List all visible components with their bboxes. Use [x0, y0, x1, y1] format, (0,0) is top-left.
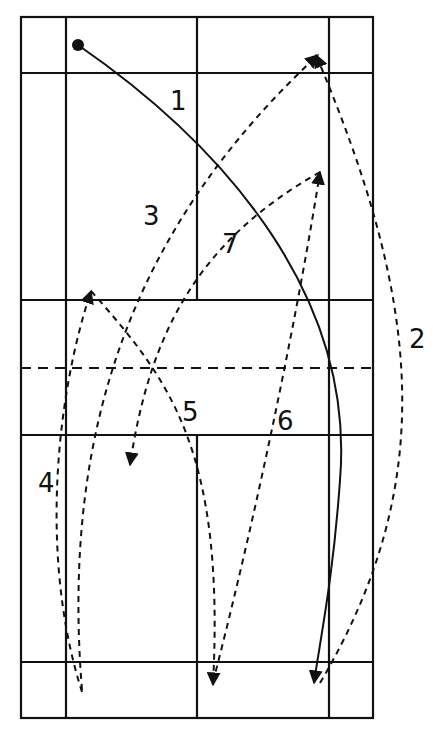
badminton-court-diagram: 1 2 3 4 5 6 7 [0, 0, 433, 731]
shot-3-path [78, 55, 318, 690]
court-lines [21, 17, 373, 718]
shot-3-label: 3 [143, 201, 160, 231]
shot-6-label: 6 [277, 406, 294, 436]
shot-1-label: 1 [170, 86, 187, 116]
shot-1-path [78, 45, 341, 683]
shot-5-label: 5 [182, 397, 199, 427]
shot-4-label: 4 [38, 468, 55, 498]
shot-2-label: 2 [409, 324, 426, 354]
shot-7-label: 7 [222, 229, 239, 259]
